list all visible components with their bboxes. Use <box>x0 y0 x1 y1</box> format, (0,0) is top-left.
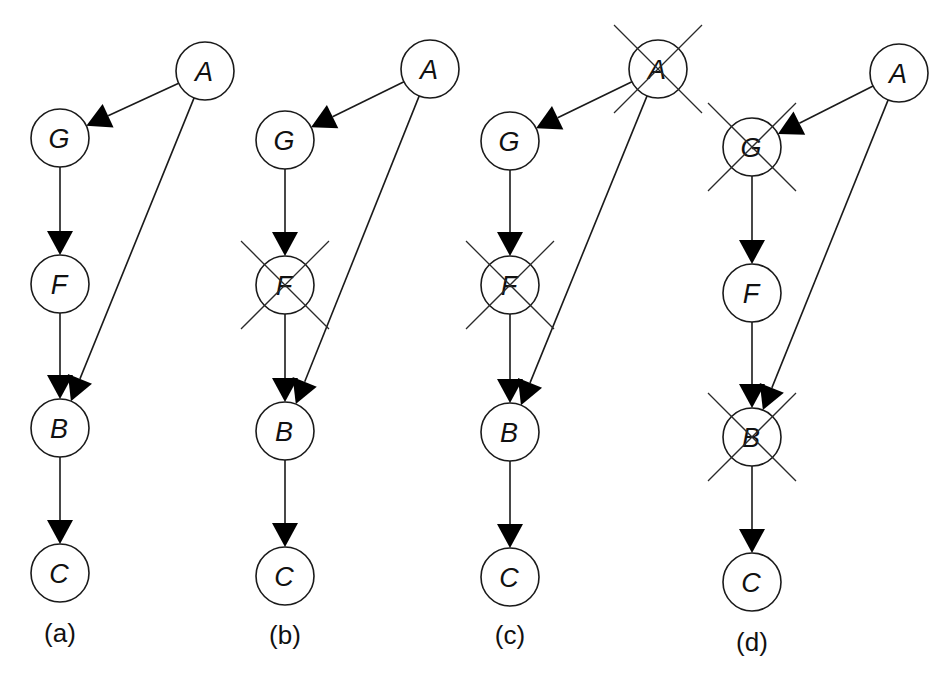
node-label: A <box>887 59 907 89</box>
arrowhead-icon <box>497 524 523 548</box>
edge-A-G <box>536 82 632 130</box>
node-label: F <box>743 279 761 309</box>
node-A: A <box>401 40 459 98</box>
node-B: B <box>481 403 539 461</box>
edge-A-G <box>778 86 873 135</box>
node-A: A <box>176 42 234 100</box>
panel-d: AGFBC(d) <box>708 44 928 657</box>
node-label: B <box>500 418 518 448</box>
node-G: G <box>256 111 314 169</box>
edge-B-C <box>47 457 73 544</box>
node-label: C <box>49 559 69 589</box>
panel-label: (d) <box>736 627 768 657</box>
edge-G-F <box>272 169 298 256</box>
node-G: G <box>31 109 89 167</box>
edge-G-F <box>47 167 73 255</box>
panel-label: (a) <box>44 618 76 648</box>
node-C: C <box>256 547 314 605</box>
causal-graph-figure: AGFBC(a)AGFBC(b)AGFBC(c)AGFBC(d) <box>0 0 952 681</box>
node-A: A <box>614 25 702 113</box>
node-F: F <box>31 255 89 313</box>
node-A: A <box>870 44 928 102</box>
edge-B-C <box>272 460 298 547</box>
panel-a: AGFBC(a) <box>31 42 234 648</box>
node-C: C <box>31 544 89 602</box>
arrowhead-icon <box>272 523 298 547</box>
arrowhead-icon <box>47 231 73 255</box>
node-C: C <box>481 548 539 606</box>
arrowhead-icon <box>272 232 298 256</box>
node-label: G <box>48 124 69 154</box>
cross-mark-icon <box>614 25 702 113</box>
arrowhead-icon <box>739 240 765 264</box>
edge-A-G <box>311 82 404 129</box>
edge-A-G <box>86 83 178 127</box>
arrowhead-icon <box>47 520 73 544</box>
node-label: B <box>50 414 68 444</box>
edge-G-F <box>739 176 765 264</box>
edge-B-C <box>739 466 765 553</box>
node-label: F <box>51 270 69 300</box>
panel-c: AGFBC(c) <box>466 25 702 650</box>
node-label: A <box>418 55 438 85</box>
node-label: A <box>193 57 213 87</box>
node-label: C <box>274 562 294 592</box>
panel-b: AGFBC(b) <box>241 40 459 650</box>
edge-F-B <box>739 322 765 408</box>
node-B: B <box>31 399 89 457</box>
node-B: B <box>256 402 314 460</box>
edge-B-C <box>497 461 523 548</box>
edge-F-B <box>497 314 523 403</box>
node-label: G <box>273 126 294 156</box>
node-C: C <box>723 553 781 611</box>
node-label: C <box>741 568 761 598</box>
panels-root: AGFBC(a)AGFBC(b)AGFBC(c)AGFBC(d) <box>31 25 928 657</box>
node-label: G <box>498 127 519 157</box>
node-F: F <box>723 264 781 322</box>
edge-F-B <box>47 313 73 399</box>
edge-G-F <box>497 170 523 256</box>
arrowhead-icon <box>739 529 765 553</box>
node-label: C <box>499 563 519 593</box>
node-G: G <box>481 112 539 170</box>
panel-label: (c) <box>495 620 525 650</box>
panel-label: (b) <box>269 620 301 650</box>
node-label: B <box>275 417 293 447</box>
arrowhead-icon <box>497 232 523 256</box>
